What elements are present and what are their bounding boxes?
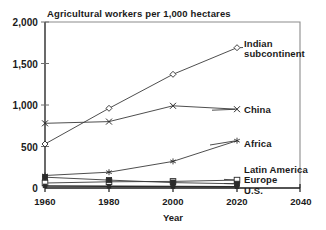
series-label-europe: Europe	[244, 174, 277, 185]
series-label-china: China	[244, 104, 272, 115]
x-tick-label-1980: 1980	[98, 196, 120, 207]
leader-china	[212, 109, 235, 110]
line-chart: 2,000 1,500 1,000 500 0 1960 1980 2000 2…	[0, 0, 326, 230]
markers-africa	[42, 138, 240, 179]
series-label-africa: Africa	[244, 138, 272, 149]
x-axis-title: Year	[163, 212, 183, 223]
leader-latin-america	[224, 179, 234, 180]
x-tick-label-1960: 1960	[34, 196, 56, 207]
markers-indian-subcontinent	[42, 45, 240, 147]
chart-title: Agricultural workers per 1,000 hectares	[47, 8, 231, 19]
x-tick-label-2000: 2000	[162, 196, 184, 207]
y-tick-label-0: 0	[32, 183, 38, 194]
series-label-us: U.S.	[244, 185, 263, 196]
y-tick-label-500: 500	[21, 142, 38, 153]
x-tick-label-2020: 2020	[226, 196, 248, 207]
y-tick-label-1000: 1,000	[12, 100, 38, 111]
x-tick-label-2040: 2040	[290, 196, 312, 207]
series-line-china	[45, 106, 237, 124]
series-line-indian-subcontinent	[45, 48, 237, 144]
series-line-africa	[45, 141, 237, 176]
series-line-us	[45, 186, 237, 187]
chart-container: 2,000 1,500 1,000 500 0 1960 1980 2000 2…	[0, 0, 326, 230]
y-tick-label-2000: 2,000	[12, 17, 38, 28]
series-label-indian-subcontinent-line2: subcontinent	[244, 48, 306, 59]
y-tick-label-1500: 1,500	[12, 59, 38, 70]
